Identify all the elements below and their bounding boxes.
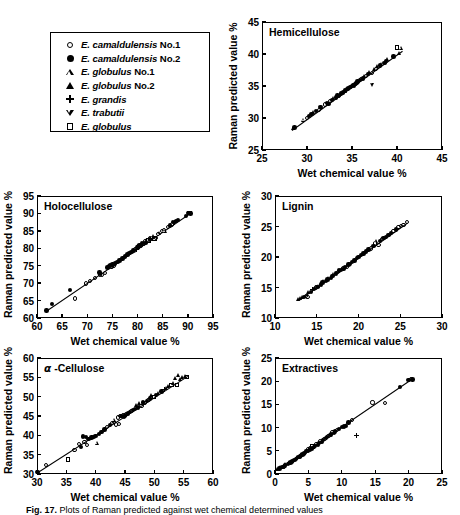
y-axis-label-extractives: Raman predicted value % [240, 358, 252, 474]
y-tick [275, 473, 279, 474]
y-tick-label: 15 [254, 399, 272, 410]
x-tick [408, 470, 409, 474]
y-tick-label: 25 [254, 353, 272, 364]
y-tick [275, 381, 279, 382]
figure-caption: Fig. 17. Plots of Raman predicted agains… [26, 505, 446, 515]
y-tick-label: 0 [254, 469, 272, 480]
y-tick-label: 5 [254, 445, 272, 456]
x-tick [341, 470, 342, 474]
x-tick-label: 10 [336, 477, 347, 488]
x-tick-label: 20 [403, 477, 414, 488]
x-tick [375, 470, 376, 474]
x-tick-label: 0 [272, 477, 278, 488]
caption-label: Fig. 17. [26, 505, 57, 515]
y-tick-label: 20 [254, 376, 272, 387]
data-point [410, 377, 414, 381]
panel-title-lignin: Lignin [282, 200, 314, 212]
x-tick-label: 15 [370, 477, 381, 488]
panel-title-alpha-cellulose: α -Cellulose [44, 362, 104, 374]
panel-title-extractives: Extractives [282, 362, 338, 374]
y-tick [275, 450, 279, 451]
data-point [354, 433, 359, 438]
y-tick [275, 427, 279, 428]
caption-text: Plots of Raman predicted against wet che… [60, 505, 323, 515]
y-tick [275, 357, 279, 358]
x-tick-label: 25 [436, 477, 447, 488]
x-tick [441, 470, 442, 474]
x-axis-label-extractives: Wet chemical value % [275, 491, 442, 503]
y-tick-label: 10 [254, 422, 272, 433]
data-point [370, 400, 374, 404]
x-tick-label: 5 [306, 477, 312, 488]
x-tick [308, 470, 309, 474]
panel-title-hemicellulose: Hemicellulose [269, 26, 340, 38]
panel-title-holocellulose: Holocellulose [44, 200, 112, 212]
y-tick [275, 404, 279, 405]
